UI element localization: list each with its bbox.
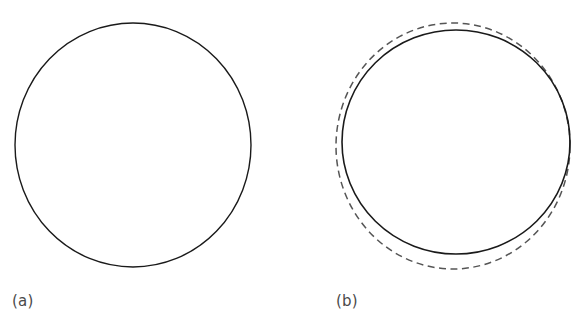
- panel-b-dashed-circle: [336, 23, 570, 269]
- panel-a: (a): [0, 0, 294, 324]
- panel-b-label: (b): [336, 294, 358, 309]
- panel-b-plot: [294, 0, 588, 324]
- panel-a-solid-circle: [15, 23, 251, 267]
- panel-b: (b): [294, 0, 588, 324]
- figure-root: (a) (b): [0, 0, 588, 324]
- panel-a-plot: [0, 0, 294, 324]
- panel-b-solid-circle: [342, 30, 570, 254]
- panel-a-label: (a): [12, 294, 34, 309]
